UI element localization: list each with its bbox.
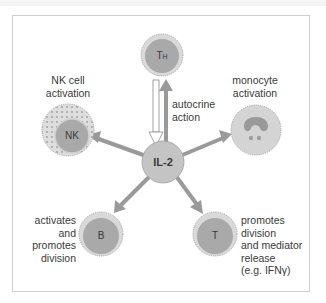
arrow-to-nk bbox=[88, 131, 146, 156]
th-cell-label: TH bbox=[150, 50, 174, 64]
arrow-to-t bbox=[176, 176, 203, 214]
t-cell-label: T bbox=[203, 230, 227, 243]
monocyte-annotation: monocyte activation bbox=[220, 74, 290, 99]
b-annotation: activates and promotes division bbox=[18, 214, 76, 264]
nk-annotation: NK cell activation bbox=[36, 74, 100, 99]
arrow-to-monocyte bbox=[180, 130, 232, 156]
t-annotation: promotes division and mediator release (… bbox=[241, 214, 302, 277]
il2-label: IL-2 bbox=[142, 156, 184, 169]
b-cell-label: B bbox=[89, 230, 113, 243]
nk-cell-label: NK bbox=[60, 130, 84, 143]
autocrine-annotation: autocrine action bbox=[172, 98, 215, 123]
arrow-to-b bbox=[114, 176, 150, 213]
monocyte-cell bbox=[231, 105, 281, 155]
